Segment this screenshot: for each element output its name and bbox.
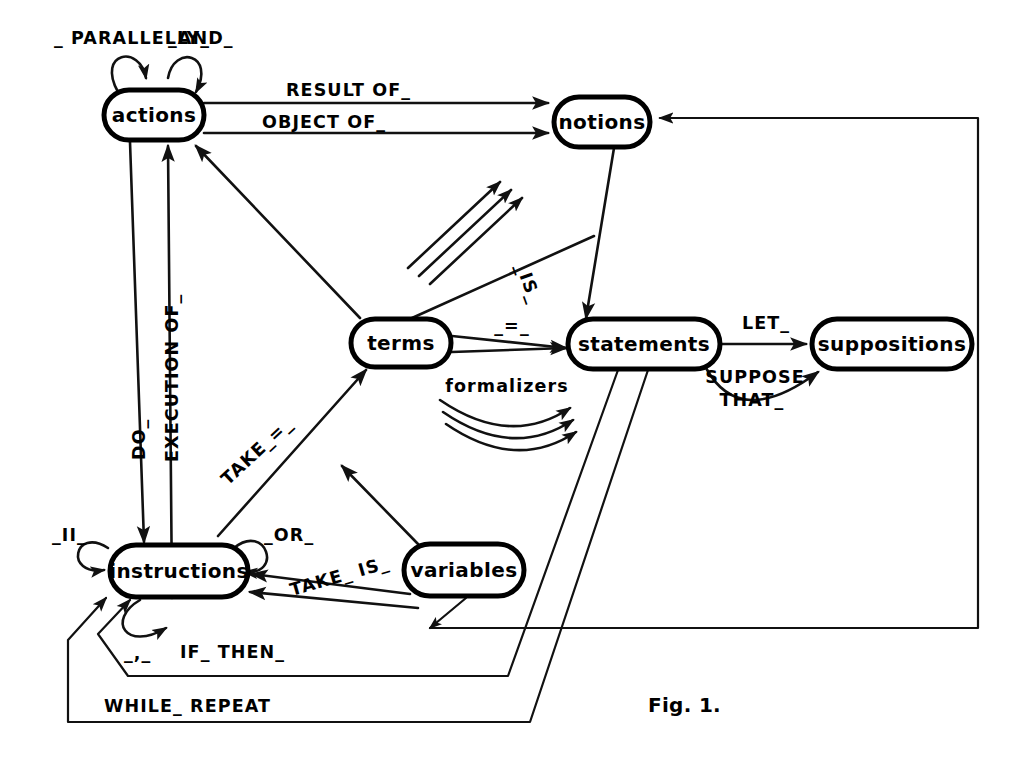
edge-label-do: DO_ bbox=[129, 419, 149, 460]
self-loop-actions-parallelly bbox=[112, 57, 146, 92]
node-terms[interactable]: terms bbox=[351, 319, 451, 367]
node-notions[interactable]: notions bbox=[554, 97, 650, 147]
node-notions-label: notions bbox=[558, 110, 645, 134]
node-statements[interactable]: statements bbox=[568, 319, 720, 369]
node-instructions-label: instructions bbox=[109, 559, 249, 583]
edge-label-if-then: IF_ THEN_ bbox=[180, 642, 285, 662]
edge-label-let: LET_ bbox=[742, 313, 790, 333]
figure-canvas: actions notions terms statements supposi… bbox=[0, 0, 1030, 774]
edge-variables-terms bbox=[342, 466, 418, 544]
edge-label-execution-of: EXECUTION OF_ bbox=[162, 294, 182, 462]
node-actions[interactable]: actions bbox=[104, 90, 204, 140]
edge-label-is: _IS_ bbox=[512, 261, 545, 306]
edge-label-suppose: SUPPOSE bbox=[705, 367, 805, 387]
self-loop-instructions-parallel bbox=[78, 542, 108, 570]
self-loop-actions-and bbox=[168, 57, 201, 92]
self-loop-instructions-comma bbox=[123, 600, 166, 637]
node-suppositions-label: suppositions bbox=[818, 332, 966, 356]
edge-label-while-repeat: WHILE_ REPEAT bbox=[104, 696, 271, 716]
edge-label-or: _OR_ bbox=[264, 525, 314, 545]
formalizers-curve-bundle bbox=[440, 400, 576, 450]
node-variables[interactable]: variables bbox=[404, 544, 524, 596]
edge-terms-actions bbox=[196, 146, 360, 318]
edge-notions-statements-is bbox=[586, 148, 614, 318]
edge-label-equals: _=_ bbox=[494, 316, 529, 336]
node-terms-label: terms bbox=[367, 331, 435, 355]
edge-actions-instructions-do bbox=[130, 142, 144, 542]
edge-label-parallel-bars: _II_ bbox=[52, 525, 87, 545]
edge-label-that: THAT_ bbox=[720, 390, 785, 410]
node-variables-label: variables bbox=[411, 558, 518, 582]
figure-caption: Fig. 1. bbox=[648, 693, 721, 717]
node-statements-label: statements bbox=[578, 332, 710, 356]
edge-label-object-of: OBJECT OF_ bbox=[262, 112, 386, 132]
node-actions-label: actions bbox=[112, 103, 196, 127]
edge-label-take-is: TAKE_ IS_ bbox=[288, 552, 392, 599]
concept-graph-diagram: actions notions terms statements supposi… bbox=[0, 0, 1030, 774]
node-instructions[interactable]: instructions bbox=[109, 545, 249, 597]
edge-label-take-equals: TAKE_=_ bbox=[217, 413, 296, 489]
edge-label-and: _AND_ bbox=[168, 28, 234, 48]
node-suppositions[interactable]: suppositions bbox=[812, 319, 972, 369]
naming-arrow-bundle bbox=[408, 182, 522, 284]
edge-label-formalizers: formalizers bbox=[445, 376, 569, 396]
edge-label-comma: _,_ bbox=[124, 643, 151, 663]
edge-terms-statements-equals bbox=[452, 336, 566, 352]
edge-label-result-of: RESULT OF_ bbox=[286, 80, 411, 100]
edge-variables-down-hook bbox=[430, 598, 466, 628]
